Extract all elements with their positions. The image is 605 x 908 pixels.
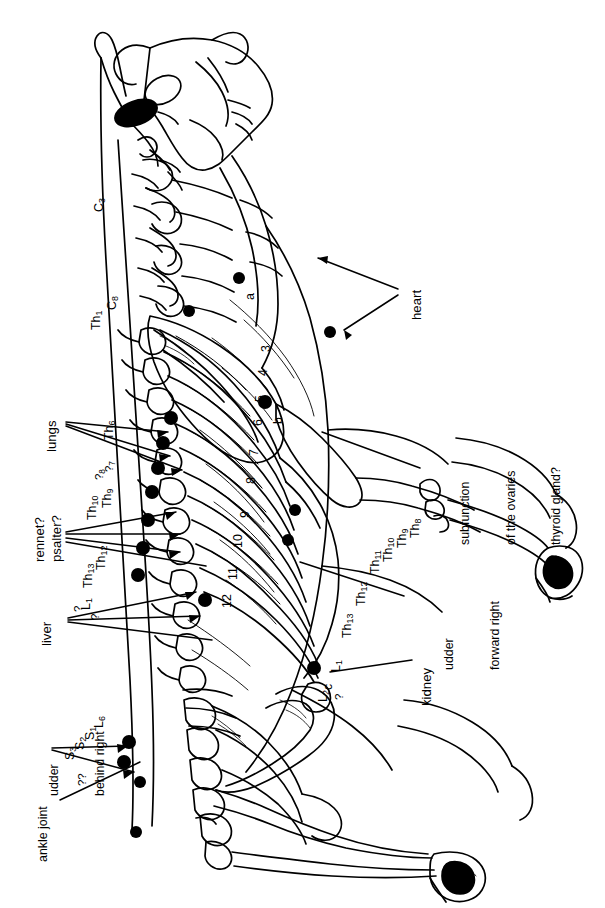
label-kidney: kidney xyxy=(420,668,434,706)
vertebra-label-s3: S3 xyxy=(64,747,79,760)
figure-canvas: heart lungs rennet? psalter? liver kidne… xyxy=(0,0,605,908)
label-line: udder xyxy=(442,601,457,670)
rib-number-4: 4 xyxy=(257,369,270,376)
vertebra-label-th10-right: Th10 xyxy=(382,538,397,562)
rib-number-11: 11 xyxy=(227,567,240,580)
rib-number-10: 10 xyxy=(232,534,245,548)
vertebra-label-th1: Th1 xyxy=(90,311,105,330)
vertebra-label-l1-right: L1 xyxy=(330,660,345,672)
label-line: behind right xyxy=(93,731,108,796)
vertebra-label-th13-right: Th13 xyxy=(341,614,356,638)
label-lungs: lungs xyxy=(45,420,59,452)
vertebra-label-c8: C8 xyxy=(106,296,121,310)
point-marker-a: a xyxy=(244,293,257,300)
vertebra-label-q2: ? xyxy=(89,614,101,620)
label-rennet: rennet? xyxy=(33,517,47,562)
vertebra-label-th9-right: Th9 xyxy=(396,529,411,548)
label-heart: heart xyxy=(410,290,424,320)
vertebra-label-th8q: ?8 xyxy=(93,469,108,480)
vertebra-label-th12: Th12 xyxy=(95,546,110,570)
rib-number-5: 5 xyxy=(254,395,267,402)
label-line: subfunction xyxy=(458,467,473,545)
vertebra-label-qq: ?? xyxy=(76,773,88,786)
point-marker-c: c xyxy=(322,684,335,690)
rib-number-6: 6 xyxy=(252,419,265,426)
vertebra-label-q-right: ? xyxy=(333,694,345,700)
rib-number-9: 9 xyxy=(239,511,252,518)
label-udder-forward-right: udder forward right xyxy=(412,601,533,670)
label-ankle-joint: ankle joint xyxy=(37,806,50,862)
rib-number-8: 8 xyxy=(245,477,258,484)
label-line: forward right xyxy=(488,601,503,670)
label-line: thyroid gland? xyxy=(549,467,564,545)
vertebra-label-th8-right: Th8 xyxy=(409,519,424,538)
rib-number-3: 3 xyxy=(260,345,273,352)
label-line: udder xyxy=(47,731,62,796)
rib-number-7: 7 xyxy=(248,449,261,456)
vertebra-label-th13: Th13 xyxy=(82,564,97,588)
label-subfunction-ovaries-thyroid: subfunction of the ovaries thyroid gland… xyxy=(428,467,594,545)
point-marker-b: b xyxy=(272,417,285,424)
vertebra-label-th12-right: Th12 xyxy=(355,582,370,606)
label-line: of the ovaries xyxy=(504,467,519,545)
label-psalter: psalter? xyxy=(50,515,64,562)
vertebra-label-l2-right: L2 xyxy=(317,690,332,702)
vertebra-label-q1: ? xyxy=(72,606,84,612)
vertebra-label-th6: Th6 xyxy=(103,421,118,440)
vertebra-label-c3: C3 xyxy=(93,198,108,212)
rib-number-12: 12 xyxy=(221,594,234,608)
vertebra-label-th10: Th10 xyxy=(86,496,101,520)
vertebra-label-th9: Th9 xyxy=(101,489,116,508)
vertebra-label-th11-right: Th11 xyxy=(369,550,384,574)
label-liver: liver xyxy=(40,622,54,646)
